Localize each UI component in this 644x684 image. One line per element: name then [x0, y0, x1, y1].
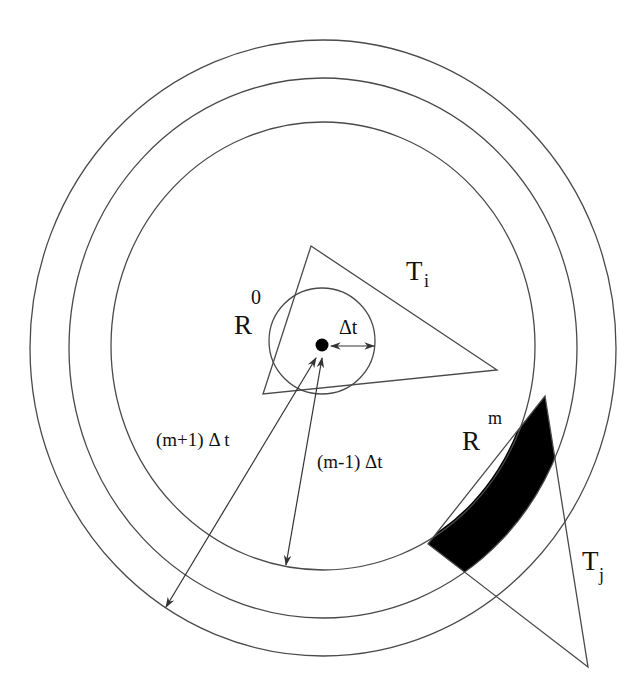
label-r0: R [234, 312, 252, 339]
label-ti: T [406, 258, 423, 285]
label-r0-superscript: 0 [251, 287, 261, 307]
label-delta-t: Δt [339, 317, 357, 337]
diagram-figure: R 0 T i Δt (m+1) Δ t (m-1) Δt R m T j [0, 0, 644, 684]
label-ti-subscript: i [424, 272, 429, 290]
label-tj-subscript: j [599, 566, 604, 584]
triangle-ti [263, 246, 497, 394]
m-plus-1-arrow [166, 358, 316, 607]
label-tj: T [582, 548, 599, 575]
diagram-canvas [0, 0, 644, 684]
center-point [316, 339, 329, 352]
label-rm: R [462, 428, 480, 455]
label-m-minus-1-delta-t: (m-1) Δt [317, 452, 383, 471]
label-m-plus-1-delta-t: (m+1) Δ t [156, 430, 230, 449]
label-rm-superscript: m [488, 409, 502, 427]
